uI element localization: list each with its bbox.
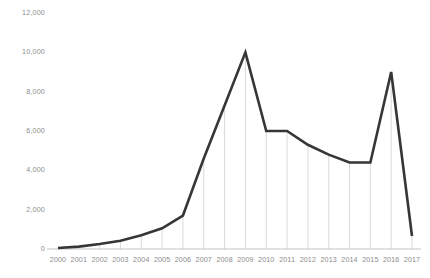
- x-tick-label-2006: 2006: [175, 255, 191, 264]
- x-tick-label-2015: 2015: [362, 255, 378, 264]
- chart-container: 12,00010,0008,0006,0004,0002,0000 200020…: [0, 0, 430, 278]
- data-series: [58, 52, 412, 248]
- x-tick-label-2002: 2002: [91, 255, 107, 264]
- y-tick-label-2000: 2,000: [26, 205, 45, 214]
- line-chart: 12,00010,0008,0006,0004,0002,0000 200020…: [0, 0, 430, 278]
- series-line: [58, 52, 412, 248]
- x-tick-label-2014: 2014: [341, 255, 357, 264]
- gridlines: [79, 52, 412, 249]
- y-tick-label-0: 0: [41, 244, 45, 253]
- y-tick-label-10000: 10,000: [22, 47, 45, 56]
- x-tick-label-2011: 2011: [279, 255, 295, 264]
- x-tick-label-2013: 2013: [321, 255, 337, 264]
- x-tick-label-2008: 2008: [216, 255, 232, 264]
- x-tick-label-2009: 2009: [237, 255, 253, 264]
- x-tick-label-2000: 2000: [50, 255, 66, 264]
- y-tick-label-8000: 8,000: [26, 87, 45, 96]
- x-tick-label-2016: 2016: [383, 255, 399, 264]
- y-tick-label-4000: 4,000: [26, 165, 45, 174]
- y-axis-tick-labels: 12,00010,0008,0006,0004,0002,0000: [22, 8, 45, 253]
- x-axis-tick-labels: 2000200120022003200420052006200720082009…: [50, 255, 420, 264]
- x-tick-label-2007: 2007: [196, 255, 212, 264]
- x-tick-label-2010: 2010: [258, 255, 274, 264]
- x-tick-label-2017: 2017: [404, 255, 420, 264]
- x-tick-label-2003: 2003: [112, 255, 128, 264]
- x-tick-label-2012: 2012: [300, 255, 316, 264]
- x-tick-label-2005: 2005: [154, 255, 170, 264]
- x-tick-label-2001: 2001: [71, 255, 87, 264]
- y-tick-label-6000: 6,000: [26, 126, 45, 135]
- y-tick-label-12000: 12,000: [22, 8, 45, 17]
- x-tick-label-2004: 2004: [133, 255, 149, 264]
